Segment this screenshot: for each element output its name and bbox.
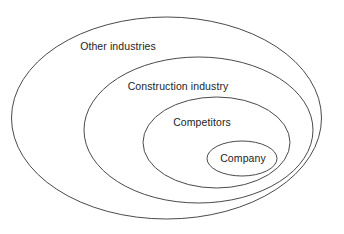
label-construction-industry: Construction industry: [128, 80, 229, 92]
nested-ellipse-diagram: Other industries Construction industry C…: [0, 0, 344, 234]
ellipse-other-industries: [12, 17, 322, 219]
diagram-canvas: Other industries Construction industry C…: [0, 0, 344, 234]
label-company: Company: [220, 152, 266, 164]
label-other-industries: Other industries: [80, 40, 156, 52]
ellipse-competitors: [143, 97, 290, 188]
label-competitors: Competitors: [173, 116, 231, 128]
